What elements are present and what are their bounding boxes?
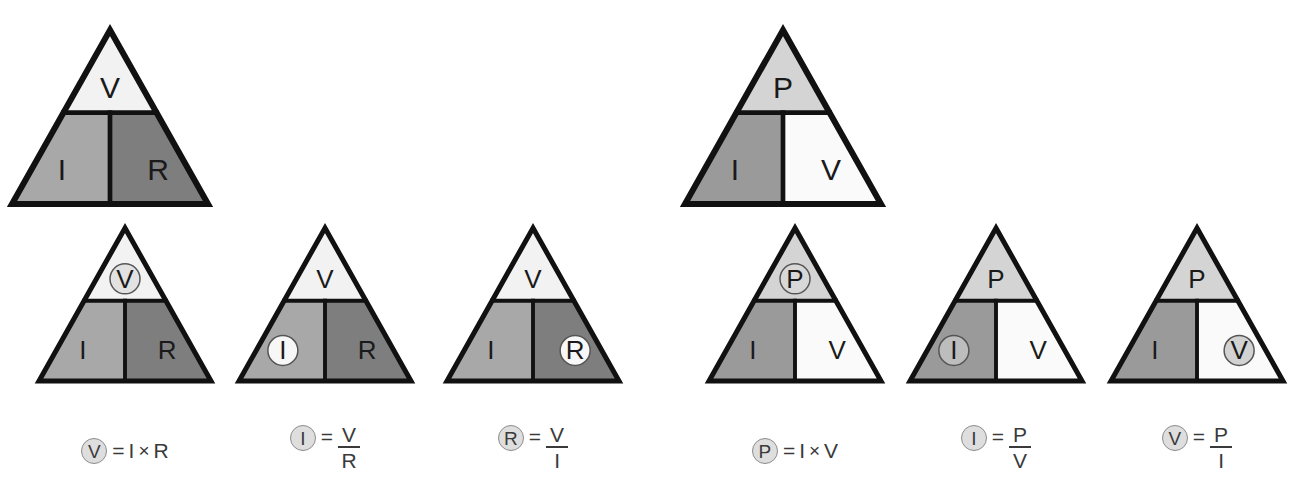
triangle-label-top: V [116,264,134,294]
triangle-label-top: V [524,264,542,294]
triangle-label-bottom-right: V [1230,335,1248,365]
triangle-label-bottom-right: R [358,335,377,365]
formula-subject-circle: I [290,425,316,451]
solve-for-i-power-triangle-container: PIV [905,223,1087,386]
formula-subject-circle: P [752,438,778,464]
solve-for-v-triangle: VIR [34,223,216,386]
ohms-law-master-triangle: VIR [6,24,214,210]
power-law-master-triangle: PIV [679,24,887,210]
triangle-label-bottom-right: V [821,153,841,186]
triangle-label-bottom-left: I [749,335,756,365]
solve-for-i-formula: I=VR [225,423,425,481]
formula-operand-a: I [799,439,805,463]
solve-for-v-formula: V=I×R [25,423,225,479]
solve-for-v-power-triangle-container: PIV [1106,223,1288,386]
formula-operator: × [138,440,149,462]
triangle-label-top: P [786,264,803,294]
formula-denominator: R [339,448,360,471]
triangle-label-bottom-left: I [950,335,957,365]
triangle-label-bottom-left: I [58,153,66,186]
formula-equals-sign: = [321,425,333,449]
triangle-label-top: P [1188,264,1205,294]
triangle-label-top: P [987,264,1004,294]
formula-fraction: VI [546,424,568,472]
solve-for-i-power-formula: I=PV [896,423,1096,481]
formula-equals-sign: = [992,425,1004,449]
formula-operator: × [809,440,820,462]
formula-subject-circle: I [961,425,987,451]
solve-for-i-triangle-container: VIR [234,223,416,386]
formula-numerator: P [1010,424,1030,446]
solve-for-v-triangle-container: VIR [34,223,216,386]
solve-for-r-triangle: VIR [442,223,624,386]
triangle-label-bottom-left: I [487,335,494,365]
solve-for-i-triangle: VIR [234,223,416,386]
formula-fraction: VR [338,424,360,472]
triangle-label-bottom-left: I [279,335,286,365]
triangle-label-top: V [316,264,334,294]
formula-equals-sign: = [112,439,124,463]
formula-numerator: V [547,424,567,446]
solve-for-r-triangle-container: VIR [442,223,624,386]
triangle-label-top: V [100,71,120,104]
formula-operand-a: I [129,439,135,463]
solve-for-v-power-formula: V=PI [1097,423,1297,481]
formula-denominator: I [551,448,563,471]
formula-operand-b: R [154,439,169,463]
formula-denominator: I [1215,448,1227,471]
solve-for-r-formula: R=VI [433,423,633,481]
solve-for-i-power-triangle: PIV [905,223,1087,386]
triangle-label-bottom-left: I [731,153,739,186]
solve-for-p-triangle: PIV [704,223,886,386]
formula-equals-sign: = [529,425,541,449]
triangle-label-bottom-right: R [158,335,177,365]
diagram-canvas: VIRPIVVIRVIRVIRPIVPIVPIV V=I×RI=VRR=VIP=… [0,0,1309,491]
formula-equals-sign: = [783,439,795,463]
triangle-label-top: P [773,71,793,104]
formula-equals-sign: = [1193,425,1205,449]
solve-for-p-formula: P=I×V [695,423,895,479]
triangle-label-bottom-right: R [566,335,585,365]
formula-fraction: PV [1009,424,1031,472]
ohms-law-master-triangle-container: VIR [6,24,214,210]
triangle-label-bottom-left: I [79,335,86,365]
formula-operand-b: V [824,439,838,463]
formula-subject-circle: R [498,425,524,451]
solve-for-p-triangle-container: PIV [704,223,886,386]
triangle-label-bottom-right: V [1029,335,1047,365]
formula-denominator: V [1010,448,1030,471]
formula-subject-circle: V [81,438,107,464]
power-law-master-triangle-container: PIV [679,24,887,210]
formula-fraction: PI [1210,424,1232,472]
formula-subject-circle: V [1162,425,1188,451]
triangle-label-bottom-right: R [147,153,169,186]
formula-numerator: V [339,424,359,446]
triangle-label-bottom-left: I [1151,335,1158,365]
page-title [0,0,1309,4]
formula-numerator: P [1211,424,1231,446]
solve-for-v-power-triangle: PIV [1106,223,1288,386]
triangle-label-bottom-right: V [828,335,846,365]
